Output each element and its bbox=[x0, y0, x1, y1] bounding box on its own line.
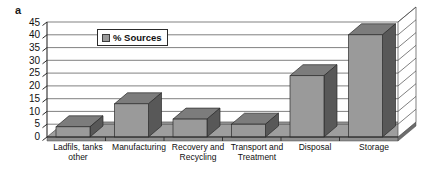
x-label-storage: Storage bbox=[343, 142, 405, 152]
y-tick-label-15: 15 bbox=[18, 94, 40, 104]
y-tick-label-30: 30 bbox=[18, 56, 40, 66]
x-label-recovery-and-recycling: Recovery and Recycling bbox=[167, 142, 229, 162]
bar-manufacturing bbox=[115, 93, 162, 137]
y-axis-tick-marks bbox=[43, 22, 48, 141]
x-label-disposal: Disposal bbox=[284, 142, 346, 152]
legend-swatch-icon bbox=[102, 34, 110, 42]
bar-storage bbox=[349, 24, 396, 137]
x-label-transport-and-treatment: Transport and Treatment bbox=[226, 142, 288, 162]
bar-disposal bbox=[290, 65, 337, 137]
legend-label: % Sources bbox=[113, 33, 162, 43]
y-tick-label-10: 10 bbox=[18, 107, 40, 117]
y-tick-label-35: 35 bbox=[18, 43, 40, 53]
y-tick-label-25: 25 bbox=[18, 68, 40, 78]
x-label-ladfils-tanks-other: Ladfils, tanks other bbox=[47, 142, 109, 162]
y-tick-label-20: 20 bbox=[18, 81, 40, 91]
y-tick-label-45: 45 bbox=[18, 18, 40, 28]
y-tick-label-5: 5 bbox=[18, 119, 40, 129]
figure-panel: a bbox=[0, 0, 434, 184]
chart-legend: % Sources bbox=[97, 29, 168, 46]
y-tick-label-0: 0 bbox=[18, 132, 40, 142]
y-tick-label-40: 40 bbox=[18, 30, 40, 40]
x-label-manufacturing: Manufacturing bbox=[107, 142, 171, 152]
plot-right-wall bbox=[398, 7, 416, 137]
